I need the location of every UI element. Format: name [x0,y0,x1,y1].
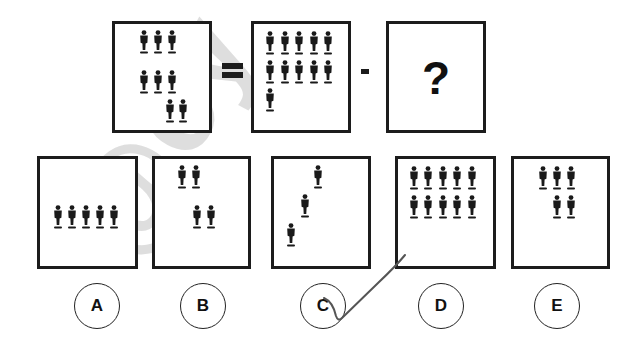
option-e-label[interactable]: E [534,283,580,329]
equation-middle-box [251,21,351,133]
equals-sign [222,63,243,69]
equation-left-box [112,21,212,133]
option-a-label[interactable]: A [74,283,120,329]
option-c-box[interactable] [271,156,371,269]
equals-sign-lower [222,72,243,78]
question-mark: ? [422,55,450,101]
option-b-label[interactable]: B [180,283,226,329]
option-d-label[interactable]: D [418,283,464,329]
option-d-box[interactable] [395,156,496,269]
minus-sign [361,69,369,74]
option-a-box[interactable] [37,156,138,269]
option-c-label[interactable]: C [300,283,346,329]
option-e-box[interactable] [511,156,610,269]
option-b-box[interactable] [152,156,251,269]
